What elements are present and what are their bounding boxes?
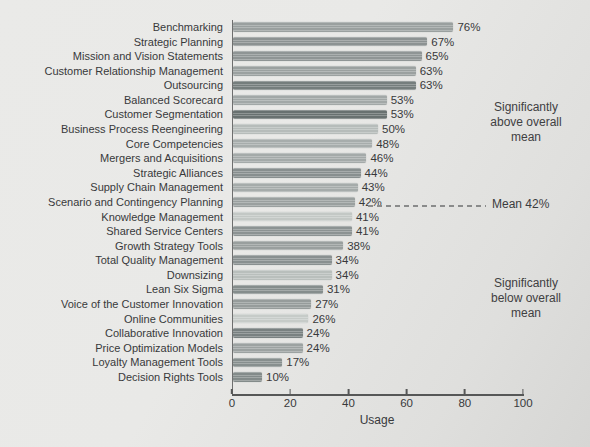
bar	[233, 183, 358, 193]
chart-row: Total Quality Management 34%	[0, 253, 590, 268]
category-label: Growth Strategy Tools	[0, 240, 228, 252]
category-label: Total Quality Management	[0, 254, 228, 266]
bar-zone: 53%	[233, 93, 414, 108]
x-axis-tick: 0	[229, 389, 235, 409]
value-label: 41%	[356, 211, 379, 223]
value-label: 46%	[370, 152, 393, 164]
chart-row: Mission and Vision Statements 65%	[0, 49, 590, 64]
value-label: 26%	[312, 313, 335, 325]
bar	[233, 81, 416, 91]
bar-zone: 43%	[233, 180, 385, 195]
value-label: 10%	[266, 371, 289, 383]
bar	[233, 95, 387, 105]
value-label: 63%	[420, 79, 443, 91]
y-axis-line	[232, 20, 234, 395]
tick-label: 80	[458, 397, 471, 409]
tick-mark	[406, 389, 408, 394]
bar	[233, 168, 361, 178]
bar	[233, 285, 323, 295]
x-axis-tick: 20	[284, 389, 297, 409]
bar-zone: 53%	[233, 107, 414, 122]
x-axis-tick: 40	[342, 389, 355, 409]
mean-dashed-line	[368, 205, 486, 207]
category-label: Scenario and Contingency Planning	[0, 196, 228, 208]
category-label: Voice of the Customer Innovation	[0, 298, 228, 310]
bar	[233, 314, 308, 324]
value-label: 41%	[356, 225, 379, 237]
bar	[233, 51, 422, 61]
value-label: 38%	[347, 240, 370, 252]
bar-zone: 38%	[233, 238, 370, 253]
bar	[233, 139, 372, 149]
value-label: 17%	[286, 356, 309, 368]
bar-zone: 50%	[233, 122, 405, 137]
category-label: Mission and Vision Statements	[0, 50, 228, 62]
x-axis-tick: 100	[513, 389, 532, 409]
tick-mark	[348, 389, 350, 394]
bar	[233, 241, 343, 251]
bar-zone: 27%	[233, 297, 338, 312]
value-label: 43%	[362, 181, 385, 193]
bar	[233, 66, 416, 76]
value-label: 53%	[391, 94, 414, 106]
chart-row: Knowledge Management 41%	[0, 209, 590, 224]
category-label: Shared Service Centers	[0, 225, 228, 237]
chart-row: Decision Rights Tools 10%	[0, 370, 590, 385]
chart-row: Loyalty Management Tools 17%	[0, 355, 590, 370]
category-label: Collaborative Innovation	[0, 327, 228, 339]
bar-zone: 48%	[233, 136, 399, 151]
value-label: 53%	[391, 108, 414, 120]
bar-zone: 17%	[233, 355, 309, 370]
category-label: Customer Segmentation	[0, 108, 228, 120]
category-label: Knowledge Management	[0, 211, 228, 223]
annotation-below-mean: Significantly below overall mean	[471, 276, 581, 321]
bar	[233, 197, 355, 207]
bar	[233, 358, 282, 368]
category-label: Balanced Scorecard	[0, 94, 228, 106]
bar	[233, 343, 303, 353]
category-label: Strategic Alliances	[0, 167, 228, 179]
bar	[233, 270, 332, 280]
category-label: Decision Rights Tools	[0, 371, 228, 383]
bar	[233, 212, 352, 222]
value-label: 34%	[336, 254, 359, 266]
x-axis-tick: 80	[458, 389, 471, 409]
bar-chart: Benchmarking 76% Strategic Planning 67% …	[0, 0, 590, 447]
tick-label: 0	[229, 397, 235, 409]
category-label: Outsourcing	[0, 79, 228, 91]
bar-zone: 24%	[233, 340, 330, 355]
category-label: Price Optimization Models	[0, 342, 228, 354]
value-label: 50%	[382, 123, 405, 135]
bar	[233, 110, 387, 120]
bar-zone: 46%	[233, 151, 393, 166]
x-axis-tick: 60	[400, 389, 413, 409]
bar	[233, 124, 378, 134]
value-label: 65%	[426, 50, 449, 62]
category-label: Mergers and Acquisitions	[0, 152, 228, 164]
x-axis-title: Usage	[332, 413, 422, 427]
tick-label: 60	[400, 397, 413, 409]
bar	[233, 153, 366, 163]
chart-row: Supply Chain Management 43%	[0, 180, 590, 195]
bar	[233, 372, 262, 382]
bar	[233, 255, 332, 265]
bar	[233, 226, 352, 236]
bar-zone: 42%	[233, 195, 382, 210]
chart-row: Shared Service Centers 41%	[0, 224, 590, 239]
category-label: Downsizing	[0, 269, 228, 281]
bar-zone: 41%	[233, 209, 379, 224]
tick-label: 20	[284, 397, 297, 409]
category-label: Benchmarking	[0, 21, 228, 33]
value-label: 63%	[420, 65, 443, 77]
value-label: 67%	[431, 36, 454, 48]
tick-mark	[522, 389, 524, 394]
value-label: 27%	[315, 298, 338, 310]
chart-row: Benchmarking 76%	[0, 20, 590, 35]
tick-mark	[464, 389, 466, 394]
bar-zone: 10%	[233, 370, 289, 385]
bar-zone: 31%	[233, 282, 350, 297]
category-label: Strategic Planning	[0, 36, 228, 48]
category-label: Business Process Reengineering	[0, 123, 228, 135]
bar-zone: 44%	[233, 166, 388, 181]
tick-label: 100	[513, 397, 532, 409]
